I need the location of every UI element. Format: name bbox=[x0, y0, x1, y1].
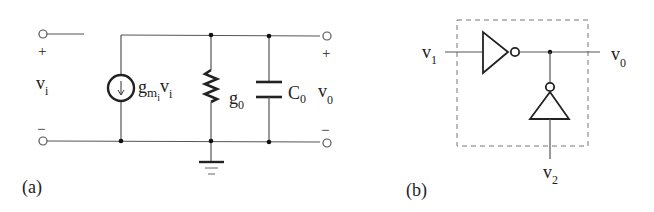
inverter-icon bbox=[483, 32, 508, 73]
junction-dot bbox=[119, 139, 124, 144]
junction-dot bbox=[267, 140, 272, 145]
resistor-icon bbox=[205, 70, 217, 102]
conductance-label: g0 bbox=[229, 88, 244, 112]
input-terminal-top bbox=[39, 30, 47, 38]
inverter-bubble bbox=[511, 48, 519, 56]
output-voltage-label: v0 bbox=[318, 81, 333, 107]
input1-label: v1 bbox=[422, 42, 437, 67]
input-plus-label: + bbox=[38, 43, 46, 59]
circuit-figure: + − vi gmivi g0 C0 v0 + − (a) v1 v0 v2 (… bbox=[0, 0, 654, 212]
inverter-bubble bbox=[546, 83, 554, 91]
top-rail bbox=[121, 35, 320, 36]
dashed-boundary bbox=[457, 20, 588, 146]
current-source-label: gmivi bbox=[138, 76, 173, 103]
output-plus-label: + bbox=[322, 45, 330, 61]
junction-dot bbox=[209, 33, 214, 38]
input-terminal-bottom bbox=[39, 137, 47, 145]
small-signal-circuit: + − vi gmivi g0 C0 v0 + − (a) bbox=[22, 30, 333, 198]
junction-dot bbox=[267, 34, 272, 39]
input2-label: v2 bbox=[543, 162, 558, 187]
capacitor-label: C0 bbox=[288, 83, 306, 106]
figure-a-caption: (a) bbox=[22, 177, 42, 198]
junction-dot bbox=[209, 139, 214, 144]
input-minus-label: − bbox=[37, 121, 45, 137]
output-minus-label: − bbox=[321, 122, 329, 138]
output-label: v0 bbox=[611, 44, 626, 70]
ground-icon bbox=[199, 162, 224, 174]
inverter-latch-circuit: v1 v0 v2 (b) bbox=[406, 20, 626, 201]
bottom-rail bbox=[47, 141, 320, 142]
input-voltage-label: vi bbox=[36, 73, 49, 98]
output-terminal-bottom bbox=[323, 139, 331, 147]
inverter-icon bbox=[530, 92, 569, 119]
output-terminal-top bbox=[323, 32, 331, 40]
figure-b-caption: (b) bbox=[406, 180, 427, 201]
